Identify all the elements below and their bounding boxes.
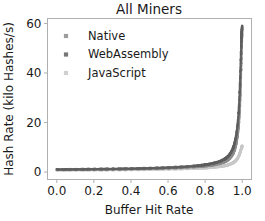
y-tick-label: 0 bbox=[34, 165, 42, 179]
legend-marker-native bbox=[64, 34, 68, 38]
legend-label-webassembly: WebAssembly bbox=[88, 47, 169, 61]
chart-figure: All Miners 0204060 0.00.20.40.60.81.0 Bu… bbox=[0, 0, 265, 221]
chart-title: All Miners bbox=[116, 1, 182, 17]
legend-label-native: Native bbox=[88, 29, 125, 43]
x-tick-label: 0.4 bbox=[121, 184, 140, 198]
y-tick-label: 40 bbox=[26, 66, 41, 80]
legend-marker-javascript bbox=[64, 71, 68, 75]
legend-label-javascript: JavaScript bbox=[87, 66, 146, 80]
x-tick-label: 1.0 bbox=[233, 184, 252, 198]
legend-marker-webassembly bbox=[64, 52, 68, 56]
y-axis-title: Hash Rate (kilo Hashes/s) bbox=[2, 22, 16, 176]
x-tick-label: 0.6 bbox=[158, 184, 177, 198]
x-axis-title: Buffer Hit Rate bbox=[105, 203, 194, 217]
x-tick-label: 0.8 bbox=[196, 184, 215, 198]
y-tick-label: 20 bbox=[26, 116, 41, 130]
y-tick-label: 60 bbox=[26, 17, 41, 31]
x-tick-label: 0.2 bbox=[84, 184, 103, 198]
all-miners-scatter-chart: All Miners 0204060 0.00.20.40.60.81.0 Bu… bbox=[0, 0, 265, 221]
x-tick-label: 0.0 bbox=[47, 184, 66, 198]
